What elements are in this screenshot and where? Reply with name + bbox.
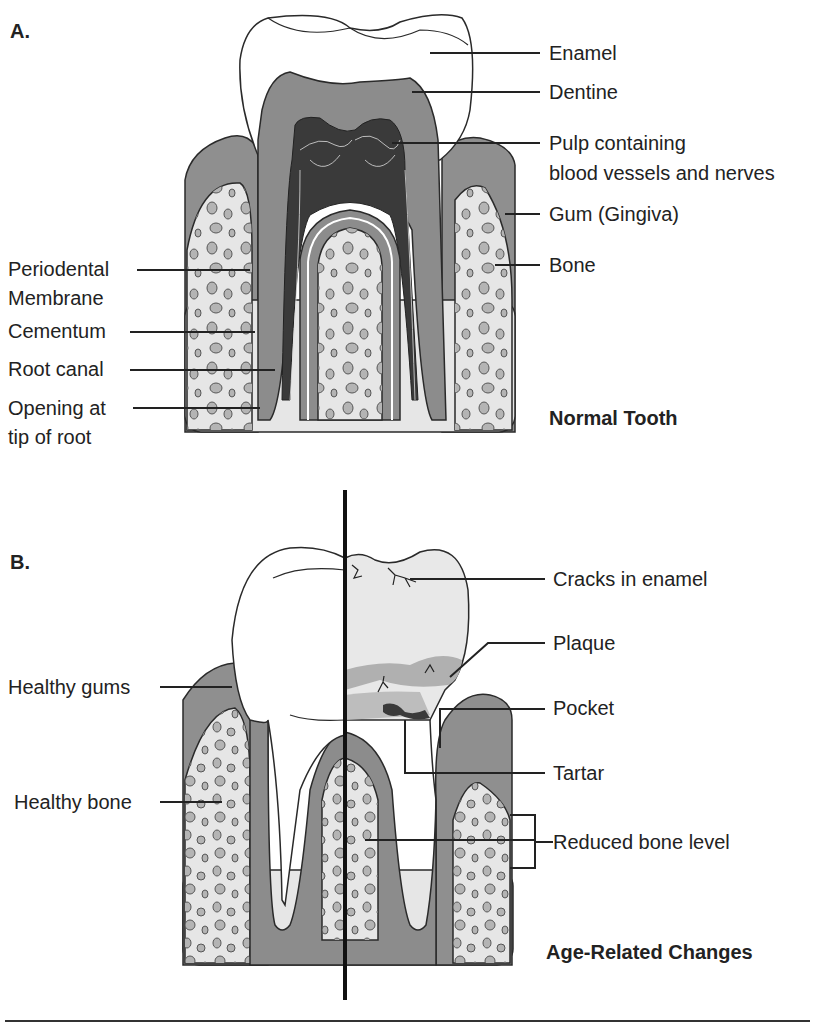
caption-age-related-changes: Age-Related Changes (546, 941, 753, 964)
label-tartar: Tartar (553, 758, 604, 788)
age-related-tooth-illustration (0, 0, 823, 1027)
label-reduced-bone-level: Reduced bone level (553, 827, 730, 857)
label-pocket: Pocket (553, 693, 614, 723)
label-cracks-in-enamel: Cracks in enamel (553, 564, 708, 594)
label-plaque: Plaque (553, 628, 615, 658)
bottom-rule (5, 1020, 810, 1022)
label-healthy-bone: Healthy bone (14, 787, 132, 817)
label-healthy-gums: Healthy gums (8, 672, 130, 702)
